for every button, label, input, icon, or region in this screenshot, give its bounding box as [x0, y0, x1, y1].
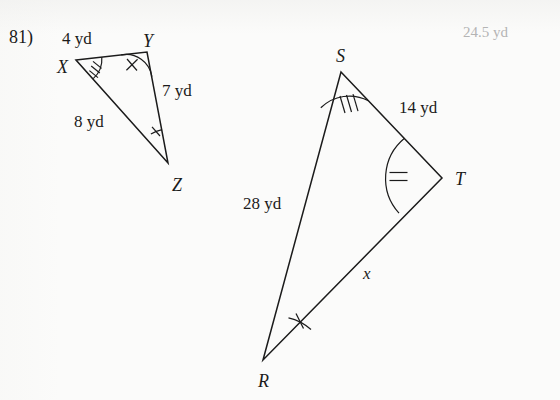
triangle-xyz-outline [76, 52, 168, 163]
vertex-label-s: S [336, 47, 345, 65]
triangle-xyz-group [76, 52, 168, 163]
answer-value: 24.5 yd [463, 25, 508, 40]
vertex-label-z: Z [172, 176, 182, 194]
worksheet-page: 81) 24.5 yd 4 yd 7 yd 8 yd X Y Z 14 yd 2… [0, 0, 560, 400]
side-label-st: 14 yd [399, 99, 437, 116]
side-label-xz: 8 yd [74, 113, 104, 130]
vertex-label-t: T [455, 170, 465, 188]
angle-mark-r [289, 314, 312, 330]
angle-mark-s [321, 94, 369, 113]
vertex-label-x: X [57, 58, 68, 76]
side-label-yz: 7 yd [162, 82, 192, 99]
angle-mark-z [151, 127, 162, 136]
problem-number: 81) [9, 28, 33, 46]
side-label-rt-unknown: x [363, 265, 371, 282]
side-label-xy: 4 yd [62, 30, 92, 47]
angle-mark-y [121, 54, 152, 76]
vertex-label-y: Y [143, 32, 153, 50]
side-label-rs: 28 yd [243, 195, 281, 212]
angle-mark-t [386, 138, 408, 213]
vertex-label-r: R [258, 372, 269, 390]
angle-mark-x [89, 57, 101, 79]
